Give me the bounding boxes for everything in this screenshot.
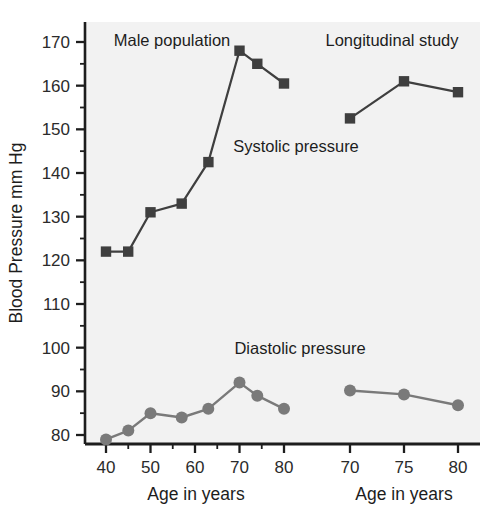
data-point-square: [399, 76, 409, 86]
annotation-diastolic-pressure: Diastolic pressure: [234, 339, 365, 357]
x-tick-label-left: 60: [186, 458, 205, 477]
annotation-longitudinal-study: Longitudinal study: [325, 31, 459, 49]
data-point-square: [234, 46, 244, 56]
y-tick-label: 160: [42, 77, 70, 96]
y-tick-label: 140: [42, 164, 70, 183]
data-point-square: [279, 78, 289, 88]
x-tick-label-right: 80: [449, 458, 468, 477]
annotation-male-population: Male population: [114, 31, 231, 49]
annotation-systolic-pressure: Systolic pressure: [233, 137, 359, 155]
data-point-circle: [202, 403, 214, 415]
x-tick-label-right: 70: [341, 458, 360, 477]
data-point-circle: [278, 403, 290, 415]
data-point-circle: [100, 433, 112, 445]
x-tick-label-left: 80: [275, 458, 294, 477]
data-point-square: [177, 198, 187, 208]
data-point-circle: [344, 385, 356, 397]
data-point-circle: [398, 388, 410, 400]
data-point-square: [101, 246, 111, 256]
data-point-square: [123, 246, 133, 256]
data-point-square: [453, 87, 463, 97]
x-tick-label-left: 50: [141, 458, 160, 477]
chart-canvas: 8090100110120130140150160170Blood Pressu…: [0, 0, 481, 511]
y-axis-title: Blood Pressure mm Hg: [6, 143, 26, 324]
y-tick-label: 80: [51, 426, 70, 445]
y-tick-label: 100: [42, 339, 70, 358]
data-point-circle: [251, 390, 263, 402]
data-point-square: [345, 113, 355, 123]
y-tick-label: 130: [42, 208, 70, 227]
data-point-square: [203, 157, 213, 167]
x-axis-title-left: Age in years: [147, 484, 245, 504]
data-point-circle: [145, 407, 157, 419]
y-tick-label: 150: [42, 120, 70, 139]
x-tick-label-right: 75: [395, 458, 414, 477]
data-point-square: [252, 59, 262, 69]
data-point-circle: [176, 412, 188, 424]
data-point-circle: [452, 399, 464, 411]
y-tick-label: 120: [42, 251, 70, 270]
x-axis-title-right: Age in years: [355, 484, 453, 504]
y-tick-label: 90: [51, 382, 70, 401]
y-tick-label: 170: [42, 33, 70, 52]
data-point-circle: [234, 377, 246, 389]
data-point-circle: [122, 425, 134, 437]
y-tick-label: 110: [43, 295, 70, 314]
blood-pressure-chart: 8090100110120130140150160170Blood Pressu…: [0, 0, 481, 511]
data-point-square: [145, 207, 155, 217]
x-tick-label-left: 70: [230, 458, 249, 477]
x-tick-label-left: 40: [97, 458, 116, 477]
